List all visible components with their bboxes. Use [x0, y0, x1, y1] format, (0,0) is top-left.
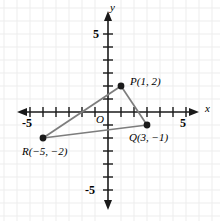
origin-label: O	[96, 114, 104, 125]
x-tick-label-pos5: 5	[180, 117, 186, 129]
point-q-dot	[144, 122, 151, 129]
y-axis	[103, 11, 113, 210]
coordinate-plane-figure: y x O -5 5 5 -5 P(1, 2) Q(3, −1) R(−5, −…	[0, 0, 220, 221]
y-tick-label-neg5: -5	[85, 184, 95, 196]
y-axis-label: y	[110, 2, 115, 13]
y-tick-label-pos5: 5	[93, 28, 99, 40]
x-tick-label-neg5: -5	[22, 117, 32, 129]
point-q-label: Q(3, −1)	[129, 132, 168, 143]
grid-lines	[0, 0, 220, 221]
point-r-label: R(−5, −2)	[22, 146, 67, 157]
x-axis-label: x	[205, 103, 210, 114]
point-r-dot	[40, 135, 47, 142]
point-p-label: P(1, 2)	[130, 76, 161, 87]
point-p-dot	[118, 83, 125, 90]
plot-canvas	[0, 0, 220, 221]
